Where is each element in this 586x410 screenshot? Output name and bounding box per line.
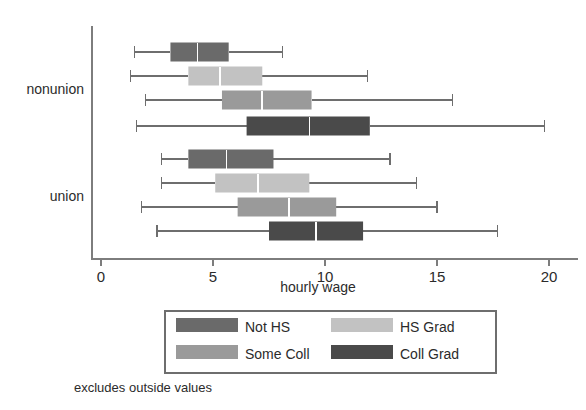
legend-label-not-hs: Not HS bbox=[245, 319, 290, 335]
box-iqr bbox=[188, 150, 273, 169]
legend-entries: Not HSHS GradSome CollColl Grad bbox=[176, 318, 459, 362]
x-axis-title: hourly wage bbox=[280, 279, 356, 295]
legend-swatch-coll-grad bbox=[331, 345, 393, 359]
legend-label-some-coll: Some Coll bbox=[245, 346, 310, 362]
box-iqr bbox=[170, 43, 228, 62]
legend: Not HSHS GradSome CollColl Grad bbox=[165, 311, 496, 373]
legend-swatch-hs-grad bbox=[331, 318, 393, 332]
box-iqr bbox=[238, 198, 337, 217]
boxplot-nonunion-not-hs bbox=[135, 43, 283, 62]
boxplot-union-not-hs bbox=[161, 150, 389, 169]
x-tick-label-0: 0 bbox=[97, 268, 105, 285]
legend-label-hs-grad: HS Grad bbox=[400, 319, 454, 335]
boxplot-union-coll-grad bbox=[157, 222, 497, 241]
footnote-excludes-outside-values: excludes outside values bbox=[74, 380, 213, 395]
box-iqr bbox=[215, 174, 309, 193]
box-iqr bbox=[247, 117, 370, 136]
y-axis-category-labels: nonunionunion bbox=[26, 81, 84, 204]
category-label-nonunion: nonunion bbox=[26, 81, 84, 97]
boxplot-nonunion-some-coll bbox=[146, 91, 453, 110]
legend-swatch-some-coll bbox=[176, 345, 238, 359]
legend-swatch-not-hs bbox=[176, 318, 238, 332]
boxplot-nonunion-hs-grad bbox=[130, 67, 367, 86]
x-tick-label-20: 20 bbox=[541, 268, 558, 285]
boxplot-union-hs-grad bbox=[161, 174, 416, 193]
legend-label-coll-grad: Coll Grad bbox=[400, 346, 459, 362]
category-label-union: union bbox=[50, 188, 84, 204]
box-plot-series-layer bbox=[130, 43, 544, 241]
x-tick-label-5: 5 bbox=[209, 268, 217, 285]
boxplot-canvas: 05101520 nonunionunion hourly wage Not H… bbox=[0, 0, 586, 410]
box-iqr bbox=[222, 91, 312, 110]
boxplot-nonunion-coll-grad bbox=[137, 117, 545, 136]
boxplot-figure: 05101520 nonunionunion hourly wage Not H… bbox=[0, 0, 586, 410]
box-iqr bbox=[188, 67, 262, 86]
boxplot-union-some-coll bbox=[141, 198, 437, 217]
x-tick-label-15: 15 bbox=[429, 268, 446, 285]
axes: 05101520 bbox=[92, 26, 578, 285]
